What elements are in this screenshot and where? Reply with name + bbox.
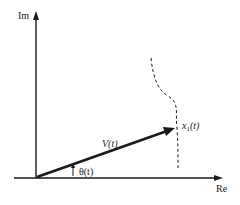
real-axis	[14, 175, 223, 181]
vector-label: V(t)	[102, 138, 118, 150]
vector-v	[37, 127, 175, 177]
re-axis-arrowhead-icon	[214, 175, 223, 181]
vector-arrowhead-icon	[163, 127, 175, 136]
vector-tip-label: x1(t)	[181, 120, 200, 133]
im-axis-label: Im	[18, 10, 29, 21]
im-axis-arrowhead-icon	[33, 11, 39, 20]
re-axis-label: Re	[216, 183, 228, 194]
angle-label: θ(t)	[79, 166, 93, 178]
phasor-diagram: Im Re V(t) x1(t) θ(t)	[0, 0, 240, 205]
tip-label-argument: (t)	[190, 120, 200, 132]
imaginary-axis	[33, 11, 39, 178]
trajectory-curve	[151, 58, 178, 168]
